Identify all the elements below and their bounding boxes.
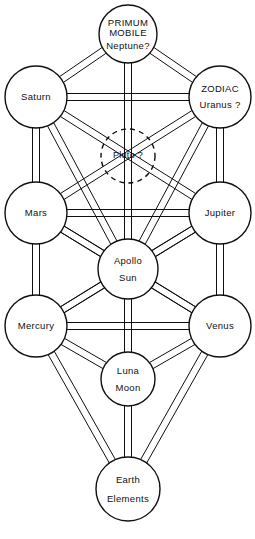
node-saturn[interactable]: Saturn (5, 66, 67, 128)
path-primum-saturn (59, 47, 106, 82)
path-jupiter-venus (217, 244, 224, 295)
node-label-saturn-0: Saturn (21, 91, 51, 102)
tree-of-life-diagram: PRIMUMMOBILENeptune?SaturnZODIACUranus ?… (0, 0, 255, 539)
node-pluto[interactable]: Pluto ? (101, 129, 155, 183)
node-label-earth-elements-1: Elements (107, 493, 149, 504)
node-label-pluto-0: Pluto ? (113, 150, 143, 160)
node-earth-elements[interactable]: EarthElements (96, 457, 160, 521)
node-label-apollo-sun-0: Apollo (114, 255, 142, 266)
node-label-luna-moon-1: Moon (116, 382, 141, 393)
path-venus-luna (149, 338, 195, 368)
node-label-venus-0: Venus (206, 320, 234, 331)
node-label-mars-0: Mars (25, 207, 47, 218)
path-mercury-luna (61, 338, 107, 368)
node-venus[interactable]: Venus (189, 295, 251, 357)
node-mercury[interactable]: Mercury (5, 295, 67, 357)
node-circle-luna-moon (101, 352, 155, 406)
path-mercury-venus (67, 323, 189, 330)
path-apollo-mercury (60, 282, 104, 313)
path-jupiter-apollo (152, 226, 196, 256)
path-luna-earth (125, 406, 132, 457)
node-circle-apollo-sun (98, 239, 158, 299)
node-label-mercury-0: Mercury (18, 320, 54, 331)
diagram-canvas: PRIMUMMOBILENeptune?SaturnZODIACUranus ?… (0, 0, 255, 539)
node-label-primum-mobile-2: Neptune? (106, 40, 150, 51)
nodes-layer: PRIMUMMOBILENeptune?SaturnZODIACUranus ?… (5, 5, 251, 521)
node-zodiac-uranus[interactable]: ZODIACUranus ? (189, 66, 251, 128)
path-apollo-luna (125, 299, 132, 352)
node-label-jupiter-0: Jupiter (205, 207, 236, 218)
path-mars-mercury (33, 244, 40, 295)
node-label-zodiac-uranus-1: Uranus ? (200, 99, 241, 110)
node-label-luna-moon-0: Luna (117, 365, 140, 376)
node-jupiter[interactable]: Jupiter (189, 182, 251, 244)
path-saturn-mars (33, 128, 40, 182)
node-label-earth-elements-0: Earth (116, 474, 140, 485)
path-apollo-venus (151, 282, 195, 313)
node-primum-mobile[interactable]: PRIMUMMOBILENeptune? (99, 5, 157, 63)
node-luna-moon[interactable]: LunaMoon (101, 352, 155, 406)
node-label-zodiac-uranus-0: ZODIAC (201, 83, 239, 94)
node-apollo-sun[interactable]: ApolloSun (98, 239, 158, 299)
path-mars-jupiter (67, 210, 189, 217)
node-label-apollo-sun-1: Sun (119, 272, 137, 283)
path-saturn-zodiac (67, 94, 189, 101)
node-mars[interactable]: Mars (5, 182, 67, 244)
path-primum-zodiac (150, 47, 197, 82)
path-mars-apollo (60, 226, 104, 256)
node-circle-zodiac-uranus (189, 66, 251, 128)
node-label-primum-mobile-1: MOBILE (109, 27, 147, 38)
path-zodiac-jupiter (217, 128, 224, 182)
node-circle-earth-elements (96, 457, 160, 521)
